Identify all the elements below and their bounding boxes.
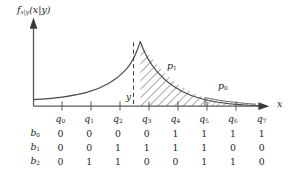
cell-b2-q3: 0 — [132, 154, 161, 168]
table-row: b1 0 0 1 1 1 1 0 0 — [14, 140, 276, 154]
y-axis-label: fx|y(x|y) — [17, 5, 51, 16]
row-label-b1-sub: 1 — [36, 147, 40, 153]
cell-b1-q4: 1 — [161, 140, 190, 154]
cell-b0-q1: 0 — [75, 126, 104, 140]
column-header-q1-sub: 1 — [90, 119, 94, 125]
region-label-p0-sub: 0 — [224, 85, 228, 91]
cell-b1-q2: 1 — [104, 140, 133, 154]
row-label-b2-sub: 2 — [36, 161, 40, 167]
column-header-q7-sub: 7 — [263, 119, 267, 125]
y-axis-label-sub: x|y — [21, 9, 30, 15]
column-header-q4-sub: 4 — [177, 119, 181, 125]
column-header-q6-sub: 6 — [234, 119, 238, 125]
cell-b1-q6: 0 — [219, 140, 248, 154]
row-label-b0-sub: 0 — [36, 133, 40, 139]
table-header-row: q0 q1 q2 q3 q4 q5 q6 q7 — [14, 112, 276, 126]
column-header-q1: q1 — [75, 112, 104, 126]
cell-b0-q7: 1 — [247, 126, 276, 140]
column-header-q6: q6 — [219, 112, 248, 126]
column-header-q7: q7 — [247, 112, 276, 126]
table-row: b0 0 0 0 0 1 1 1 1 — [14, 126, 276, 140]
column-header-q2: q2 — [104, 112, 133, 126]
column-header-q5: q5 — [190, 112, 219, 126]
region-label-p1-sub: 1 — [173, 65, 177, 71]
cell-b0-q6: 1 — [219, 126, 248, 140]
cell-b2-q0: 0 — [46, 154, 75, 168]
cell-b0-q2: 0 — [104, 126, 133, 140]
cell-b0-q4: 1 — [161, 126, 190, 140]
cell-b0-q5: 1 — [190, 126, 219, 140]
x-axis-label: x — [277, 99, 282, 109]
table-row: b2 0 1 1 0 0 1 1 0 — [14, 154, 276, 168]
row-label-b0: b0 — [14, 126, 46, 140]
cell-b1-q1: 0 — [75, 140, 104, 154]
cell-b2-q7: 0 — [247, 154, 276, 168]
table-corner-cell — [14, 112, 46, 126]
cell-b0-q3: 0 — [132, 126, 161, 140]
cell-b2-q5: 1 — [190, 154, 219, 168]
shaded-region-p1 — [141, 42, 206, 107]
cell-b1-q3: 1 — [132, 140, 161, 154]
gray-code-table: q0 q1 q2 q3 q4 q5 q6 q7 b0 0 0 0 0 1 1 — [0, 112, 294, 168]
row-label-b1: b1 — [14, 140, 46, 154]
cell-b2-q2: 1 — [104, 154, 133, 168]
column-header-q4: q4 — [161, 112, 190, 126]
column-header-q5-sub: 5 — [205, 119, 209, 125]
row-label-b2: b2 — [14, 154, 46, 168]
region-label-p0: p0 — [218, 81, 228, 92]
region-label-p1: p1 — [167, 61, 177, 72]
cell-b0-q0: 0 — [46, 126, 75, 140]
bit-assignment-table: q0 q1 q2 q3 q4 q5 q6 q7 b0 0 0 0 0 1 1 — [14, 112, 276, 168]
cell-b2-q6: 1 — [219, 154, 248, 168]
figure-root: fx|y(x|y) x y p1 p0 q0 q1 q2 q3 q4 q5 q6… — [0, 0, 294, 174]
column-header-q0: q0 — [46, 112, 75, 126]
y-marker-label: y — [126, 93, 131, 102]
cell-b1-q5: 1 — [190, 140, 219, 154]
cell-b1-q0: 0 — [46, 140, 75, 154]
column-header-q2-sub: 2 — [119, 119, 123, 125]
column-header-q3: q3 — [132, 112, 161, 126]
column-header-q0-sub: 0 — [62, 119, 66, 125]
cell-b2-q1: 1 — [75, 154, 104, 168]
cell-b2-q4: 0 — [161, 154, 190, 168]
y-axis-label-arg: (x|y) — [29, 4, 50, 15]
column-header-q3-sub: 3 — [148, 119, 152, 125]
cell-b1-q7: 0 — [247, 140, 276, 154]
